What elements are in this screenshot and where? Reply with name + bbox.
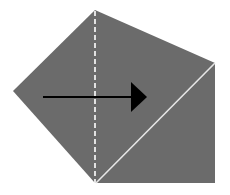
diagram-canvas [0,0,230,195]
fold-diagram [0,0,230,195]
